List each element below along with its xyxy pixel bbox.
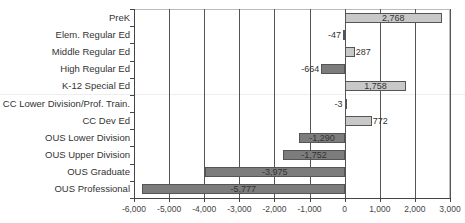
- x-tick-label: 1,000: [369, 204, 390, 214]
- value-label: -3,975: [262, 167, 288, 177]
- value-label: -1,290: [309, 133, 335, 143]
- value-label: -47: [328, 30, 341, 40]
- value-label: 2,768: [382, 13, 405, 23]
- x-tick-label: -1,000: [297, 204, 321, 214]
- x-tick-label: 3,000: [439, 204, 460, 214]
- bar: [345, 99, 347, 109]
- bar: [345, 116, 372, 126]
- x-tick-label: -4,000: [192, 204, 216, 214]
- x-tick-label: -2,000: [262, 204, 286, 214]
- bar: [321, 64, 344, 74]
- gridline: [450, 9, 451, 198]
- category-label: OUS Upper Division: [45, 149, 130, 160]
- x-tick-label: 0: [342, 204, 347, 214]
- category-label: CC Lower Division/Prof. Train.: [3, 98, 130, 109]
- value-label: -3: [335, 99, 343, 109]
- horizontal-bar-chart: 2,768-47287-6641,758-3772-1,290-1,752-3,…: [0, 0, 465, 223]
- x-tick-label: -3,000: [227, 204, 251, 214]
- category-label: OUS Professional: [54, 183, 130, 194]
- bar: [345, 47, 355, 57]
- x-tick-label: -5,000: [157, 204, 181, 214]
- bar: [343, 30, 345, 40]
- value-label: -5,777: [230, 184, 256, 194]
- gridline: [415, 9, 416, 198]
- x-tick-label: -6,000: [122, 204, 146, 214]
- gridline: [380, 9, 381, 198]
- category-label: Middle Regular Ed: [52, 46, 130, 57]
- y-axis: [134, 9, 135, 199]
- value-label: 1,758: [364, 81, 387, 91]
- x-tick-label: 2,000: [404, 204, 425, 214]
- category-label: K-12 Special Ed: [62, 80, 130, 91]
- value-label: 287: [356, 47, 371, 57]
- category-label: OUS Graduate: [67, 166, 130, 177]
- gridline: [169, 9, 170, 198]
- category-label: High Regular Ed: [60, 63, 130, 74]
- x-axis: [134, 198, 451, 199]
- value-label: -1,752: [301, 150, 327, 160]
- category-label: PreK: [109, 12, 130, 23]
- category-label: CC Dev Ed: [82, 115, 130, 126]
- category-label: Elem. Regular Ed: [56, 29, 130, 40]
- value-label: 772: [373, 116, 388, 126]
- value-label: -664: [301, 64, 319, 74]
- category-label: OUS Lower Division: [45, 132, 130, 143]
